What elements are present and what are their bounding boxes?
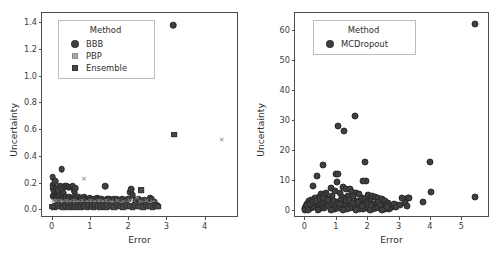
y-tick-label: 60: [280, 25, 290, 35]
y-tick: [292, 30, 296, 31]
axes-left: ✕✕✕✕✕✕✕✕✕✕✕✕✕✕✕✕✕✕✕✕✕✕✕✕✕✕✕✕✕✕✕✕✕✕✕✕✕✕✕✕…: [41, 12, 238, 217]
x-tick-label: 5: [459, 221, 464, 231]
y-tick-label: 1.0: [24, 71, 37, 81]
y-tick: [39, 183, 43, 184]
x-tick: [336, 216, 337, 220]
x-tick: [304, 216, 305, 220]
legend-title-right: Method: [319, 25, 408, 35]
y-tick: [39, 156, 43, 157]
figure-container: Uncertainty ✕✕✕✕✕✕✕✕✕✕✕✕✕✕✕✕✕✕✕✕✕✕✕✕✕✕✕✕…: [0, 0, 495, 259]
legend-marker-circle-icon: [319, 40, 341, 47]
legend-title-left: Method: [64, 25, 147, 35]
x-tick-label: 3: [396, 221, 401, 231]
data-point: ✕: [219, 136, 225, 143]
x-tick-label: 1: [87, 221, 92, 231]
y-tick-label: 0.6: [24, 124, 37, 134]
y-tick: [292, 150, 296, 151]
x-tick-label: 0: [49, 221, 54, 231]
data-point: [367, 202, 374, 209]
y-tick-label: 1.2: [24, 44, 37, 54]
x-tick: [430, 216, 431, 220]
data-point: [58, 166, 65, 173]
y-tick: [292, 60, 296, 61]
x-tick-label: 0: [302, 221, 307, 231]
legend-label-pbp: PBP: [86, 51, 102, 61]
x-tick: [461, 216, 462, 220]
x-tick: [90, 216, 91, 220]
y-tick-label: 40: [280, 85, 290, 95]
y-tick-label: 30: [280, 115, 290, 125]
y-tick: [39, 49, 43, 50]
legend-marker-circle-icon: [64, 40, 86, 47]
y-tick: [292, 180, 296, 181]
data-point: [426, 158, 433, 165]
legend-item-bbb[interactable]: BBB: [64, 38, 147, 50]
y-tick: [292, 90, 296, 91]
data-point: [314, 206, 321, 213]
x-axis-label-left: Error: [128, 234, 150, 245]
data-point: [138, 187, 144, 193]
x-tick: [52, 216, 53, 220]
data-point: [403, 202, 410, 209]
y-tick: [39, 209, 43, 210]
data-point: [313, 173, 320, 180]
data-point: [319, 162, 326, 169]
data-point: [361, 158, 368, 165]
legend-item-ensemble[interactable]: Ensemble: [64, 62, 147, 74]
data-point: [72, 185, 79, 192]
y-tick-label: 0.2: [24, 178, 37, 188]
x-tick-label: 2: [125, 221, 130, 231]
x-tick-label: 3: [164, 221, 169, 231]
data-point: [377, 202, 384, 209]
data-point: [340, 128, 347, 135]
x-tick: [367, 216, 368, 220]
data-point: [155, 204, 161, 210]
legend-marker-square-light-icon: [64, 53, 86, 60]
data-point: [471, 20, 478, 27]
x-tick: [205, 216, 206, 220]
y-tick-label: 50: [280, 55, 290, 65]
data-point: [327, 206, 334, 213]
legend-item-mcdropout[interactable]: MCDropout: [319, 38, 408, 50]
legend-label-mcdropout: MCDropout: [341, 39, 388, 49]
y-tick: [39, 22, 43, 23]
x-tick: [166, 216, 167, 220]
legend-marker-square-dark-icon: [64, 65, 86, 72]
y-tick: [39, 129, 43, 130]
data-point: [351, 112, 358, 119]
y-tick-label: 1.4: [24, 17, 37, 27]
data-point: [309, 183, 316, 190]
x-axis-label-right: Error: [380, 234, 402, 245]
y-axis-label-right: Uncertainty: [255, 103, 266, 157]
legend-right: Method MCDropout: [313, 20, 416, 55]
legend-left: Method BBB PBP Ensem: [58, 20, 155, 79]
x-tick-label: 4: [427, 221, 432, 231]
x-tick-label: 2: [365, 221, 370, 231]
data-point: [393, 203, 400, 210]
panel-right: Uncertainty Method MCDropout Error 01234…: [248, 0, 495, 259]
data-point: ✕: [81, 176, 87, 183]
y-tick: [292, 210, 296, 211]
x-tick-label: 4: [202, 221, 207, 231]
legend-label-ensemble: Ensemble: [86, 63, 127, 73]
data-point: [359, 178, 366, 185]
data-point: [170, 22, 177, 29]
panel-left: Uncertainty ✕✕✕✕✕✕✕✕✕✕✕✕✕✕✕✕✕✕✕✕✕✕✕✕✕✕✕✕…: [0, 0, 248, 259]
y-tick-label: 20: [280, 145, 290, 155]
y-tick-label: 10: [280, 175, 290, 185]
data-point: [102, 183, 109, 190]
y-tick: [39, 102, 43, 103]
x-tick: [399, 216, 400, 220]
data-point: [335, 170, 342, 177]
x-tick: [128, 216, 129, 220]
data-point: [427, 189, 434, 196]
y-tick-label: 0.8: [24, 97, 37, 107]
y-tick: [39, 76, 43, 77]
legend-item-pbp[interactable]: PBP: [64, 50, 147, 62]
y-tick-label: 0.0: [24, 204, 37, 214]
data-point: [406, 195, 413, 202]
y-tick-label: 0: [285, 205, 290, 215]
data-point: [171, 132, 177, 138]
y-axis-label-left: Uncertainty: [8, 103, 19, 157]
data-point: [420, 199, 427, 206]
